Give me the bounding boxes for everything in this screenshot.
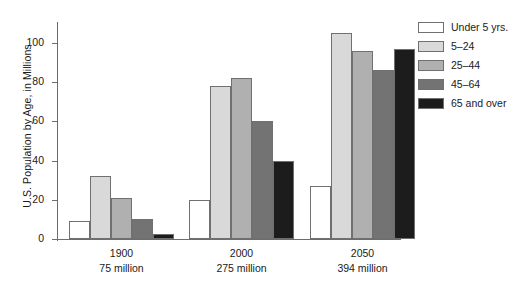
bar-2050-45-64 [373, 70, 394, 239]
legend-item-25-44: 25–44 [418, 56, 518, 74]
x-axis-labels: 190075 million2000275 million2050394 mil… [57, 246, 401, 284]
bar-2050-25-44 [352, 51, 373, 239]
bar-group-1900 [69, 21, 174, 239]
bar-2000-under-5-yrs- [189, 200, 210, 239]
bar-group-2000 [189, 21, 294, 239]
legend-swatch-icon [418, 41, 444, 52]
bar-1900-25-44 [111, 198, 132, 239]
legend-swatch-icon [418, 60, 444, 71]
plot-area: 100806040200 [57, 22, 401, 240]
legend-swatch-icon [418, 79, 444, 90]
legend-label: 25–44 [451, 59, 480, 71]
legend-label: 5–24 [451, 40, 474, 52]
y-tick-80: 80 [52, 82, 57, 83]
y-tick-label: 0 [4, 232, 44, 244]
y-tick-60: 60 [52, 121, 57, 122]
bar-2050-5-24 [331, 33, 352, 239]
bar-1900-45-64 [132, 219, 153, 239]
bar-chart: U.S. Population by Age, in Millions 1008… [0, 0, 521, 284]
bar-2000-65-and-over [273, 161, 294, 239]
bar-group-2050 [310, 21, 415, 239]
y-tick-20: 20 [52, 200, 57, 201]
legend-swatch-icon [418, 22, 444, 33]
bar-1900-65-and-over [153, 234, 174, 239]
x-label-year: 2050 [313, 246, 413, 261]
y-tick-label: 40 [4, 154, 44, 166]
x-label-population: 275 million [192, 261, 292, 276]
legend-item-under-5-yrs-: Under 5 yrs. [418, 18, 518, 36]
legend-label: 65 and over [451, 97, 506, 109]
bar-2050-under-5-yrs- [310, 186, 331, 239]
bar-2000-25-44 [231, 78, 252, 239]
x-axis-line [57, 239, 401, 240]
x-label-population: 75 million [72, 261, 172, 276]
x-label-population: 394 million [313, 261, 413, 276]
y-tick-label: 80 [4, 75, 44, 87]
y-tick-0: 0 [52, 239, 57, 240]
legend-item-5-24: 5–24 [418, 37, 518, 55]
bar-2000-45-64 [252, 121, 273, 239]
x-label-year: 1900 [72, 246, 172, 261]
y-axis-line [57, 22, 58, 241]
y-tick-40: 40 [52, 161, 57, 162]
y-tick-label: 100 [4, 36, 44, 48]
y-tick-label: 20 [4, 193, 44, 205]
bar-1900-5-24 [90, 176, 111, 239]
legend-label: 45–64 [451, 78, 480, 90]
bar-1900-under-5-yrs- [69, 221, 90, 239]
x-label-2000: 2000275 million [192, 246, 292, 276]
bar-2000-5-24 [210, 86, 231, 239]
x-label-year: 2000 [192, 246, 292, 261]
legend-swatch-icon [418, 98, 444, 109]
legend-label: Under 5 yrs. [451, 21, 508, 33]
legend-item-65-and-over: 65 and over [418, 94, 518, 112]
x-label-1900: 190075 million [72, 246, 172, 276]
y-tick-100: 100 [52, 43, 57, 44]
y-tick-label: 60 [4, 114, 44, 126]
chart-legend: Under 5 yrs.5–2425–4445–6465 and over [418, 18, 518, 113]
legend-item-45-64: 45–64 [418, 75, 518, 93]
x-label-2050: 2050394 million [313, 246, 413, 276]
bar-2050-65-and-over [394, 49, 415, 239]
